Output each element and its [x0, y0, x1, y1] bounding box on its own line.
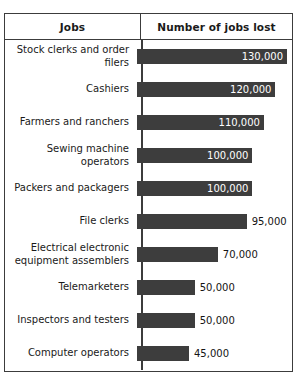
bar [137, 346, 189, 361]
chart-body: Stock clerks and order filers130,000Cash… [5, 40, 292, 370]
column-header-number-of-jobs-lost: Number of jobs lost [141, 14, 292, 39]
bar [137, 247, 218, 262]
bar-value-label: 95,000 [252, 214, 287, 229]
table-row: Telemarketers50,000 [5, 271, 292, 304]
bar-zone: 130,000 [135, 40, 292, 73]
row-label: Computer operators [5, 347, 135, 360]
column-header-jobs: Jobs [5, 14, 141, 39]
table-header-row: Jobs Number of jobs lost [5, 14, 292, 40]
bar-zone: 110,000 [135, 106, 292, 139]
bar-value-label: 100,000 [207, 148, 248, 163]
row-label: Telemarketers [5, 281, 135, 294]
table-row: Stock clerks and order filers130,000 [5, 40, 292, 73]
bar-zone: 120,000 [135, 73, 292, 106]
bar-value-label: 110,000 [219, 115, 260, 130]
row-label: Packers and packagers [5, 182, 135, 195]
table-row: Farmers and ranchers110,000 [5, 106, 292, 139]
chart-page: Jobs Number of jobs lost Stock clerks an… [0, 0, 298, 389]
table-row: Inspectors and testers50,000 [5, 304, 292, 337]
bar-zone: 50,000 [135, 271, 292, 304]
bar-value-label: 50,000 [200, 280, 235, 295]
row-label: Electrical electronic equipment assemble… [5, 242, 135, 267]
bar-zone: 100,000 [135, 139, 292, 172]
bar-value-label: 45,000 [194, 346, 229, 361]
row-label: Inspectors and testers [5, 314, 135, 327]
bar-value-label: 100,000 [207, 181, 248, 196]
table-row: Packers and packagers100,000 [5, 172, 292, 205]
bar-zone: 70,000 [135, 238, 292, 271]
row-label: Farmers and ranchers [5, 116, 135, 129]
bar-value-label: 70,000 [223, 247, 258, 262]
table-row: Sewing machine operators100,000 [5, 139, 292, 172]
bar-value-label: 120,000 [230, 82, 271, 97]
bar [137, 214, 247, 229]
table-row: File clerks95,000 [5, 205, 292, 238]
bar-value-label: 130,000 [242, 49, 283, 64]
table-row: Computer operators45,000 [5, 337, 292, 370]
row-label: Cashiers [5, 83, 135, 96]
row-label: Sewing machine operators [5, 143, 135, 168]
row-label: File clerks [5, 215, 135, 228]
table-row: Electrical electronic equipment assemble… [5, 238, 292, 271]
bar [137, 280, 195, 295]
row-label: Stock clerks and order filers [5, 44, 135, 69]
bar-value-label: 50,000 [200, 313, 235, 328]
jobs-lost-table: Jobs Number of jobs lost Stock clerks an… [4, 13, 293, 372]
bar-zone: 100,000 [135, 172, 292, 205]
bar-zone: 95,000 [135, 205, 292, 238]
bar-zone: 45,000 [135, 337, 292, 370]
bar [137, 313, 195, 328]
bar-zone: 50,000 [135, 304, 292, 337]
table-row: Cashiers120,000 [5, 73, 292, 106]
